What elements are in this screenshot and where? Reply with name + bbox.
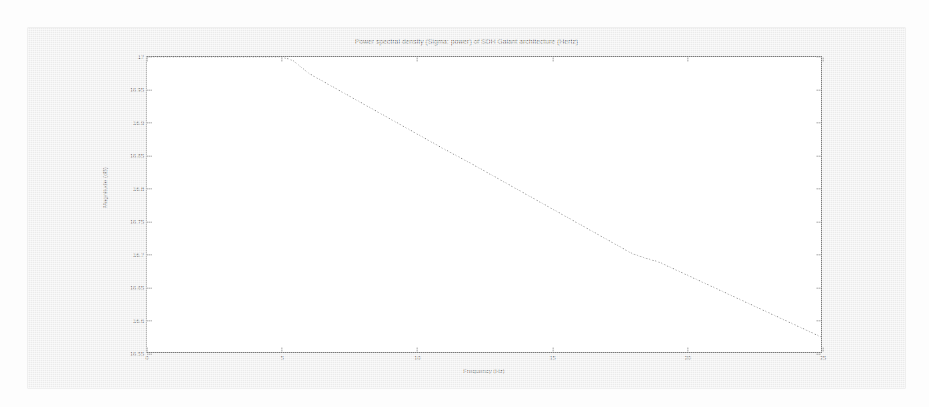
- y-tick-mark: [816, 288, 821, 289]
- figure-area: Power spectral density (Sigma: power) of…: [28, 28, 905, 388]
- y-tick-label: 16.95: [130, 87, 144, 93]
- y-tick-mark: [147, 255, 152, 256]
- y-tick-mark: [147, 288, 152, 289]
- x-tick-mark: [417, 347, 418, 352]
- x-tick-mark: [687, 347, 688, 352]
- x-tick-mark: [552, 347, 553, 352]
- x-tick-label: 10: [414, 355, 420, 361]
- y-tick-mark: [816, 189, 821, 190]
- y-tick-mark: [147, 57, 152, 58]
- y-tick-mark: [147, 222, 152, 223]
- x-tick-label: 15: [549, 355, 555, 361]
- y-tick-mark: [816, 255, 821, 256]
- y-tick-mark: [147, 156, 152, 157]
- y-tick-mark: [816, 123, 821, 124]
- y-tick-mark: [147, 189, 152, 190]
- y-tick-mark: [147, 123, 152, 124]
- y-tick-mark: [147, 90, 152, 91]
- x-tick-mark: [147, 57, 148, 62]
- x-tick-mark: [417, 57, 418, 62]
- page-canvas: Power spectral density (Sigma: power) of…: [0, 0, 929, 407]
- y-tick-label: 16.8: [133, 186, 144, 192]
- x-tick-mark: [687, 57, 688, 62]
- y-tick-label: 16.55: [130, 351, 144, 357]
- y-axis-label: Magnitude (dB): [102, 167, 108, 208]
- x-tick-mark: [823, 57, 824, 62]
- x-tick-label: 0: [145, 355, 148, 361]
- x-tick-mark: [147, 347, 148, 352]
- y-tick-mark: [816, 90, 821, 91]
- y-tick-mark: [816, 222, 821, 223]
- x-tick-mark: [282, 57, 283, 62]
- y-tick-label: 16.9: [133, 120, 144, 126]
- y-tick-label: 16.7: [133, 252, 144, 258]
- series-line-power-spectral-density: [147, 57, 821, 352]
- x-tick-label: 25: [820, 355, 826, 361]
- y-tick-label: 16.6: [133, 318, 144, 324]
- y-tick-mark: [816, 321, 821, 322]
- y-tick-mark: [147, 321, 152, 322]
- x-tick-label: 20: [685, 355, 691, 361]
- y-tick-label: 17: [138, 54, 144, 60]
- x-axis-label: Frequency (Hz): [146, 368, 822, 374]
- x-tick-mark: [282, 347, 283, 352]
- chart-title: Power spectral density (Sigma: power) of…: [28, 38, 905, 45]
- plot-area: 1716.9516.916.8516.816.7516.716.6516.616…: [146, 56, 822, 353]
- y-tick-label: 16.85: [130, 153, 144, 159]
- y-tick-mark: [816, 156, 821, 157]
- y-tick-mark: [816, 57, 821, 58]
- x-tick-mark: [552, 57, 553, 62]
- x-tick-mark: [823, 347, 824, 352]
- y-tick-label: 16.65: [130, 285, 144, 291]
- x-tick-label: 5: [281, 355, 284, 361]
- y-tick-label: 16.75: [130, 219, 144, 225]
